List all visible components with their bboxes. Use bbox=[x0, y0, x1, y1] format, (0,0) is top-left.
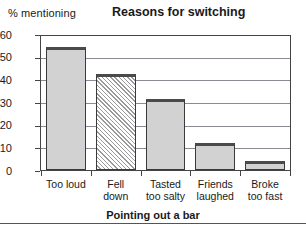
x-axis-tick-mark bbox=[91, 171, 92, 176]
x-axis-category-labels: Too loudFelldownTastedtoo saltyFriendsla… bbox=[41, 178, 290, 204]
y-axis-tick-mark bbox=[35, 148, 40, 149]
x-axis-tick-mark bbox=[41, 171, 42, 176]
y-axis-tick-mark bbox=[35, 58, 40, 59]
x-axis-category-label: Tastedtoo salty bbox=[141, 178, 191, 204]
y-axis-tick-label: 40 bbox=[0, 75, 12, 86]
x-axis-category-label: Broketoo fast bbox=[240, 178, 290, 204]
x-axis-category-label: Friendslaughed bbox=[190, 178, 240, 204]
y-axis-tick-label: 0 bbox=[0, 166, 12, 177]
bar[interactable] bbox=[195, 143, 235, 170]
y-axis-tick-mark bbox=[35, 126, 40, 127]
x-axis-category-label: Too loud bbox=[41, 178, 91, 204]
chart-figure: % mentioning Reasons for switching 01020… bbox=[0, 0, 306, 235]
category-label-line2: laughed bbox=[190, 190, 240, 202]
x-axis-tick-mark bbox=[141, 171, 142, 176]
y-axis-label: % mentioning bbox=[8, 7, 76, 19]
bar-series bbox=[41, 36, 290, 170]
y-axis-tick-mark bbox=[35, 171, 40, 172]
bar-slot bbox=[41, 36, 91, 170]
category-label-line1: Fell bbox=[107, 178, 124, 190]
chart-title: Reasons for switching bbox=[112, 5, 245, 19]
category-label-line1: Too loud bbox=[46, 178, 86, 190]
y-axis-tick-mark bbox=[35, 35, 40, 36]
bar-slot bbox=[141, 36, 191, 170]
bar[interactable] bbox=[245, 161, 285, 170]
bar[interactable] bbox=[146, 99, 186, 170]
y-axis-tick-label: 20 bbox=[0, 120, 12, 131]
category-label-line2: too salty bbox=[141, 190, 191, 202]
x-axis-category-label: Felldown bbox=[91, 178, 141, 204]
y-axis-tick-label: 50 bbox=[0, 52, 12, 63]
category-label-line2: down bbox=[91, 190, 141, 202]
bar[interactable] bbox=[96, 74, 136, 170]
category-label-line1: Tasted bbox=[150, 178, 181, 190]
bar-slot bbox=[190, 36, 240, 170]
x-axis-tick-mark bbox=[190, 171, 191, 176]
bottom-divider bbox=[0, 223, 306, 224]
y-axis-tick-mark bbox=[35, 80, 40, 81]
bar[interactable] bbox=[46, 47, 86, 170]
x-axis-tick-mark bbox=[240, 171, 241, 176]
bar-slot bbox=[240, 36, 290, 170]
category-label-line1: Friends bbox=[198, 178, 233, 190]
y-axis-tick-label: 30 bbox=[0, 98, 12, 109]
category-label-line1: Broke bbox=[251, 178, 278, 190]
y-axis-tick-mark bbox=[35, 103, 40, 104]
x-axis-tick-mark bbox=[290, 171, 291, 176]
bar-slot bbox=[91, 36, 141, 170]
figure-caption: Pointing out a bar bbox=[0, 209, 306, 221]
y-axis-tick-label: 10 bbox=[0, 143, 12, 154]
category-label-line2: too fast bbox=[240, 190, 290, 202]
y-axis-tick-label: 60 bbox=[0, 30, 12, 41]
